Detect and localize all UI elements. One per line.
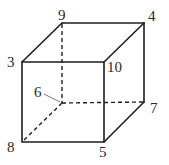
vertex-label-8: 8 <box>7 139 15 155</box>
edge-3-9 <box>22 23 62 62</box>
vertex-label-10: 10 <box>107 59 122 75</box>
vertex-label-6: 6 <box>34 84 42 100</box>
edge-7-5 <box>104 102 144 142</box>
cube-diagram: 9 4 3 10 6 7 8 5 <box>0 0 169 165</box>
leader-6 <box>44 94 60 102</box>
vertex-label-3: 3 <box>7 54 15 70</box>
edge-4-10 <box>104 23 144 62</box>
vertex-label-5: 5 <box>99 144 107 160</box>
edge-6-8 <box>23 103 62 141</box>
edge-6-7 <box>62 102 144 103</box>
vertex-label-7: 7 <box>150 100 158 116</box>
vertex-label-9: 9 <box>58 7 66 23</box>
vertex-label-4: 4 <box>148 8 156 24</box>
